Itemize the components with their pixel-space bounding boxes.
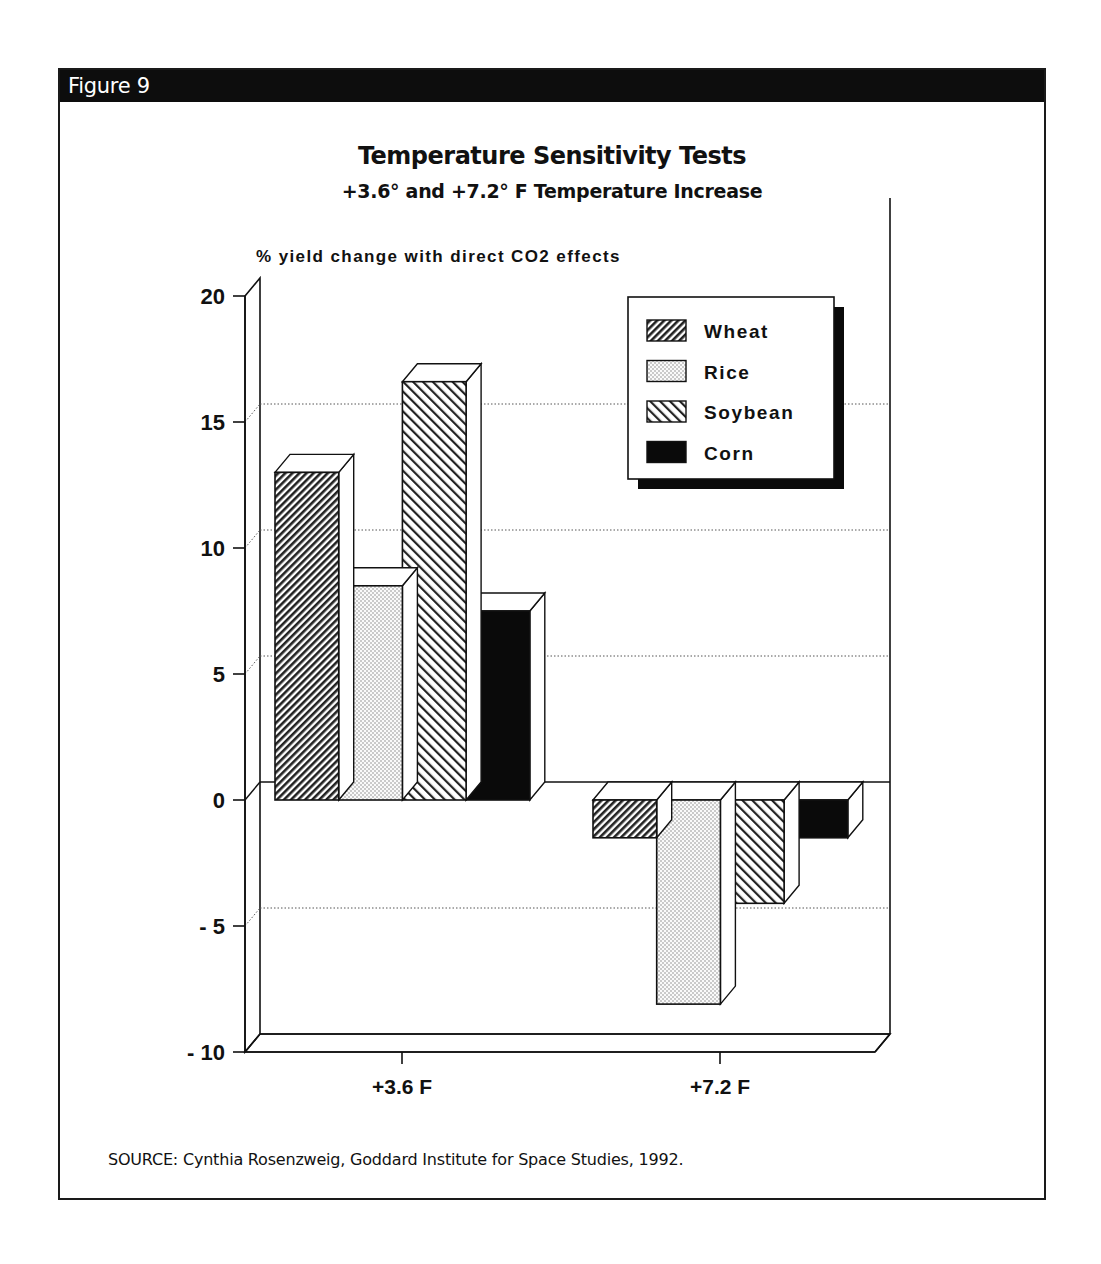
- y-tick-label: 15: [201, 410, 225, 435]
- legend-swatch-corn: [647, 442, 686, 463]
- legend-label-soybean: Soybean: [704, 402, 794, 423]
- legend-label-rice: Rice: [704, 362, 751, 383]
- x-category-label: +3.6 F: [372, 1075, 432, 1098]
- bar-front: [657, 800, 721, 1004]
- bar-front: [593, 800, 657, 838]
- bar-wheat-7-2f: [593, 782, 672, 838]
- x-category-label: +7.2 F: [690, 1075, 750, 1098]
- floor-right-edge: [875, 1034, 890, 1052]
- y-tick-label: 0: [213, 788, 225, 813]
- y-tick-label: - 5: [199, 914, 225, 939]
- legend-swatch-rice: [647, 361, 686, 382]
- y-tick-label: 20: [201, 284, 225, 309]
- bar-wheat-3-6f: [275, 454, 354, 800]
- y-tick-label: 5: [213, 662, 225, 687]
- floor: [245, 1034, 890, 1052]
- y-tick-label: - 10: [187, 1040, 225, 1065]
- bar-side: [402, 568, 417, 800]
- legend-label-wheat: Wheat: [704, 321, 769, 342]
- bar-side: [466, 364, 481, 800]
- bar-side: [720, 782, 735, 1004]
- legend-swatch-soybean: [647, 401, 686, 422]
- y-tick-label: 10: [201, 536, 225, 561]
- bar-side: [339, 454, 354, 800]
- bar-chart: - 10- 505101520+3.6 F+7.2 FWheatRiceSoyb…: [0, 0, 1101, 1264]
- bar-front: [275, 472, 339, 800]
- legend-label-corn: Corn: [704, 443, 755, 464]
- legend: WheatRiceSoybeanCorn: [628, 297, 844, 489]
- plot-area: - 10- 505101520+3.6 F+7.2 FWheatRiceSoyb…: [187, 198, 890, 1098]
- bar-side: [784, 782, 799, 903]
- legend-swatch-wheat: [647, 320, 686, 341]
- bar-side: [530, 593, 545, 800]
